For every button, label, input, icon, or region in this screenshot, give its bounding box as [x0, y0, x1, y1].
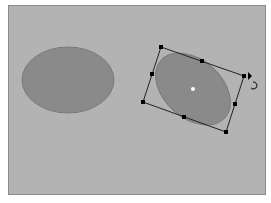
center-point-icon[interactable]: [191, 87, 195, 91]
handle-bottom-left[interactable]: [141, 100, 145, 104]
handle-top[interactable]: [200, 59, 204, 63]
handle-left[interactable]: [150, 72, 154, 76]
rotate-cursor-icon: [248, 72, 257, 89]
ellipse-shape[interactable]: [22, 47, 114, 113]
handle-top-right[interactable]: [242, 74, 246, 78]
shape-layer: [0, 0, 271, 203]
handle-bottom-right[interactable]: [224, 130, 228, 134]
handle-top-left[interactable]: [159, 45, 163, 49]
handle-bottom[interactable]: [182, 115, 186, 119]
handle-right[interactable]: [233, 102, 237, 106]
